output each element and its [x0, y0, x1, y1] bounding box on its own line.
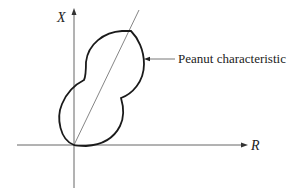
annotation-label: Peanut characteristic	[178, 51, 286, 66]
peanut-characteristic-diagram: X R Peanut characteristic	[0, 0, 299, 192]
axis-label-r: R	[250, 138, 260, 153]
axis-label-x: X	[56, 10, 66, 25]
